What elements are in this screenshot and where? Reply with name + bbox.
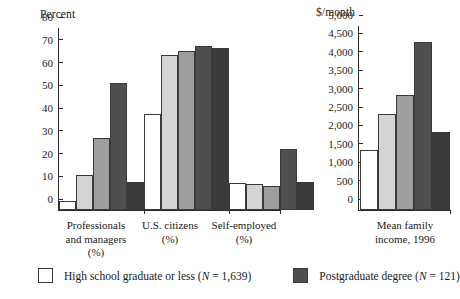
y-axis-tick-label: 4,500	[328, 28, 359, 39]
bar	[59, 201, 76, 210]
y-axis-tick-label: 1,000	[328, 157, 359, 168]
x-axis-category-label: Mean familyincome, 1996	[359, 219, 451, 246]
y-axis-tick-label: 20	[42, 148, 59, 159]
y-axis-tick-label: 4,000	[328, 46, 359, 57]
bar	[144, 114, 161, 210]
bar	[414, 42, 432, 210]
bar	[396, 95, 414, 210]
bar	[127, 182, 144, 210]
legend-label: Postgraduate degree (N = 121)	[319, 270, 460, 282]
y-axis-tick-label: 3,000	[328, 83, 359, 94]
legend-entry: High school graduate or less (N = 1,639)	[38, 268, 251, 283]
x-axis-category-label: Professionalsand managers (%)	[59, 219, 133, 260]
y-axis-tick-label: 0	[48, 194, 60, 205]
percent-bar-groups	[59, 28, 281, 210]
bar	[229, 183, 246, 210]
y-axis-tick-label: 70	[42, 34, 59, 45]
legend-label: High school graduate or less (N = 1,639)	[64, 270, 251, 282]
y-axis-tick-label: 2,000	[328, 120, 359, 131]
percent-panel: Percent 01020304050607080 Professionalsa…	[14, 0, 286, 250]
bar	[195, 46, 212, 210]
bar	[280, 149, 297, 210]
income-panel: $/month 05001,0001,5002,0002,5003,0003,5…	[300, 0, 456, 250]
y-axis-tick-label: 10	[42, 171, 59, 182]
y-axis-tick-label: 500	[337, 175, 360, 186]
bar-group	[144, 28, 229, 210]
bar	[93, 138, 110, 210]
bar	[161, 55, 178, 210]
y-axis-tick-label: 60	[42, 57, 59, 68]
y-axis-tick-label: 50	[42, 80, 59, 91]
bar	[110, 83, 127, 210]
y-axis-tick-label: 5,000	[328, 10, 359, 21]
percent-plot-area: 01020304050607080 Professionalsand manag…	[58, 28, 281, 211]
legend-swatch	[38, 268, 53, 283]
x-axis-tick	[450, 210, 451, 214]
bar	[178, 51, 195, 210]
percent-x-axis-labels: Professionalsand managers (%)U.S. citize…	[59, 219, 281, 260]
y-axis-tick-label: 2,500	[328, 102, 359, 113]
y-axis-tick-label: 0	[348, 194, 360, 205]
y-axis-tick-label: 1,500	[328, 138, 359, 149]
bar	[246, 184, 263, 210]
income-x-axis-labels: Mean familyincome, 1996	[359, 219, 451, 246]
y-axis-tick-label: 80	[42, 12, 59, 23]
x-axis-tick	[144, 210, 145, 214]
income-plot-area: 05001,0001,5002,0002,5003,0003,5004,0004…	[358, 26, 451, 211]
bar	[360, 150, 378, 210]
chart-panels: Percent 01020304050607080 Professionalsa…	[0, 0, 456, 250]
bar-group	[359, 26, 451, 210]
bar-group	[59, 28, 144, 210]
legend-entry: Postgraduate degree (N = 121)	[293, 268, 460, 283]
legend-swatch	[293, 268, 308, 283]
chart-legend: High school graduate or less (N = 1,639)…	[0, 268, 456, 283]
bar	[76, 175, 93, 210]
x-axis-tick	[280, 210, 281, 214]
y-axis-tick-label: 3,500	[328, 65, 359, 76]
y-axis-tick-label: 40	[42, 103, 59, 114]
x-axis-category-label: U.S. citizens(%)	[133, 219, 207, 260]
bar	[263, 186, 280, 210]
bar	[432, 132, 450, 210]
y-axis-tick-label: 30	[42, 125, 59, 136]
bar	[378, 114, 396, 210]
bar	[212, 48, 229, 210]
x-axis-category-label: Self-employed(%)	[207, 219, 281, 260]
x-axis-tick	[229, 210, 230, 214]
income-bar-groups	[359, 26, 451, 210]
